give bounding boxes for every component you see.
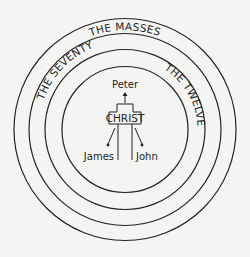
concentric-circles-diagram: THE MASSES THE SEVENTY THE TWELVE Peter … bbox=[0, 0, 250, 257]
arrow-to-james bbox=[108, 128, 115, 144]
ring-masses bbox=[14, 19, 236, 241]
arrow-to-john bbox=[135, 128, 142, 144]
label-peter: Peter bbox=[112, 79, 139, 90]
label-the-seventy: THE SEVENTY bbox=[34, 38, 95, 102]
label-james: James bbox=[83, 151, 114, 162]
label-the-masses: THE MASSES bbox=[86, 20, 162, 38]
label-john: John bbox=[135, 151, 158, 162]
arrow-dot-icon bbox=[141, 144, 144, 147]
label-christ: CHRIST bbox=[106, 112, 145, 124]
arrow-dot-icon bbox=[107, 144, 110, 147]
arrow-head-icon bbox=[123, 92, 128, 96]
